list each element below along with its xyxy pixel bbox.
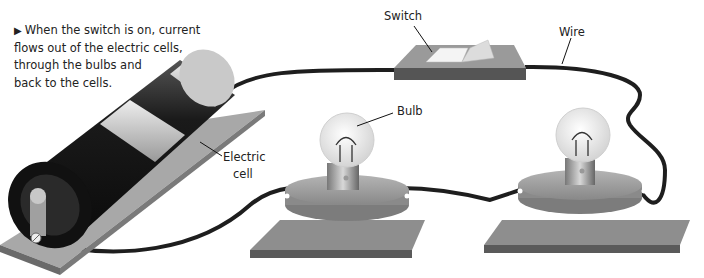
electric-cell-label-line1: Electric [223, 150, 266, 164]
wire-leader-line [562, 38, 571, 64]
bulb-left [250, 113, 425, 258]
switch [394, 40, 526, 80]
switch-label: Switch [384, 9, 422, 23]
electric-cell-label-line2: cell [233, 167, 253, 181]
caption-arrow-icon: ▶ [14, 25, 22, 36]
description-caption: ▶When the switch is on, current flows ou… [14, 22, 204, 92]
wire-label: Wire [559, 25, 585, 39]
circuit-diagram: ▶When the switch is on, current flows ou… [0, 0, 704, 278]
bulb-label: Bulb [397, 104, 423, 118]
bulb-right [484, 108, 690, 253]
